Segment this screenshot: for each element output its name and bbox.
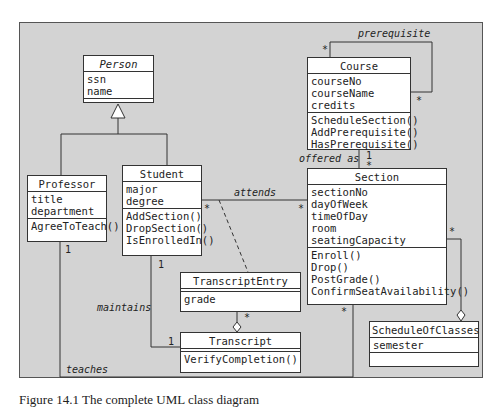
mult-section-attends: * bbox=[298, 203, 304, 214]
attributes: sectionNo dayOfWeek timeOfDay room seati… bbox=[308, 185, 446, 248]
operations: AddSection() DropSection() IsEnrolledIn(… bbox=[123, 209, 201, 247]
operations bbox=[370, 353, 478, 359]
operations: VerifyCompletion() bbox=[181, 352, 300, 366]
label-prerequisite: prerequisite bbox=[358, 28, 430, 39]
mult-section-star: * bbox=[366, 160, 372, 171]
operations bbox=[84, 99, 153, 105]
class-name: ScheduleOfClasses bbox=[370, 322, 478, 338]
operations: Enroll() Drop() PostGrade() ConfirmSeatA… bbox=[308, 248, 446, 298]
class-transcript: Transcript VerifyCompletion() bbox=[180, 332, 301, 373]
class-professor: Professor title department AgreeToTeach(… bbox=[27, 175, 107, 242]
class-name: Section bbox=[308, 169, 446, 185]
mult-transcript-one: 1 bbox=[168, 336, 174, 347]
class-name: Person bbox=[84, 56, 153, 72]
operation: DropSection() bbox=[126, 222, 198, 234]
operation: ConfirmSeatAvailability() bbox=[311, 285, 443, 297]
attribute: major bbox=[126, 183, 198, 195]
class-student: Student major degree AddSection() DropSe… bbox=[122, 165, 202, 256]
attribute: dayOfWeek bbox=[311, 198, 443, 210]
attribute: degree bbox=[126, 195, 198, 207]
mult-section-teaches: * bbox=[341, 306, 347, 317]
generalization-arrow bbox=[111, 104, 125, 118]
attribute: department bbox=[31, 205, 103, 217]
operation: Drop() bbox=[311, 261, 443, 273]
attribute: semester bbox=[373, 339, 475, 351]
attribute: grade bbox=[184, 293, 297, 305]
attribute: room bbox=[311, 222, 443, 234]
aggregation-diamond-transcript bbox=[233, 322, 241, 332]
class-transcript-entry: TranscriptEntry grade bbox=[180, 272, 301, 312]
mult-section-schedule: * bbox=[449, 226, 455, 237]
operation: AddSection() bbox=[126, 210, 198, 222]
class-course: Course courseNo courseName credits Sched… bbox=[307, 57, 411, 150]
attributes: title department bbox=[28, 192, 106, 219]
operation: AddPrerequisite() bbox=[311, 126, 407, 138]
operation: VerifyCompletion() bbox=[184, 353, 297, 365]
class-name: Course bbox=[308, 58, 410, 74]
attribute: courseNo bbox=[311, 75, 407, 87]
class-person: Person ssn name bbox=[83, 55, 154, 103]
class-section: Section sectionNo dayOfWeek timeOfDay ro… bbox=[307, 168, 447, 305]
operation: ScheduleSection() bbox=[311, 114, 407, 126]
attributes: ssn name bbox=[84, 72, 153, 99]
mult-entry-star: * bbox=[244, 312, 250, 323]
attributes: semester bbox=[370, 338, 478, 353]
attribute: name bbox=[87, 85, 150, 97]
operation: PostGrade() bbox=[311, 273, 443, 285]
class-schedule-of-classes: ScheduleOfClasses semester bbox=[369, 321, 479, 367]
class-name: Transcript bbox=[181, 333, 300, 349]
attribute: sectionNo bbox=[311, 186, 443, 198]
operation: HasPrerequisite() bbox=[311, 138, 407, 150]
mult-student-attends: * bbox=[204, 203, 210, 214]
operations: AgreeToTeach() bbox=[28, 219, 106, 233]
operation: IsEnrolledIn() bbox=[126, 234, 198, 246]
mult-student-one: 1 bbox=[158, 259, 164, 270]
label-maintains: maintains bbox=[97, 302, 151, 313]
class-name: Professor bbox=[28, 176, 106, 192]
attribute: credits bbox=[311, 99, 407, 111]
attributes: major degree bbox=[123, 182, 201, 209]
attribute: title bbox=[31, 193, 103, 205]
class-name: Student bbox=[123, 166, 201, 182]
operations: ScheduleSection() AddPrerequisite() HasP… bbox=[308, 113, 410, 151]
mult-prereq-b: * bbox=[416, 95, 422, 106]
figure-caption: Figure 14.1 The complete UML class diagr… bbox=[19, 392, 259, 408]
mult-prereq-a: * bbox=[322, 44, 328, 55]
aggregation-diamond-schedule bbox=[457, 310, 465, 321]
attributes: courseNo courseName credits bbox=[308, 74, 410, 113]
attribute: ssn bbox=[87, 73, 150, 85]
label-teaches: teaches bbox=[66, 364, 108, 375]
mult-professor-one: 1 bbox=[65, 244, 71, 255]
class-name: TranscriptEntry bbox=[181, 273, 300, 289]
label-offered-as: offered as bbox=[299, 153, 359, 164]
label-attends: attends bbox=[234, 187, 276, 198]
attribute: seatingCapacity bbox=[311, 234, 443, 246]
operation: AgreeToTeach() bbox=[31, 220, 103, 232]
attribute: courseName bbox=[311, 87, 407, 99]
attribute: timeOfDay bbox=[311, 210, 443, 222]
attributes: grade bbox=[181, 292, 300, 306]
operation: Enroll() bbox=[311, 249, 443, 261]
